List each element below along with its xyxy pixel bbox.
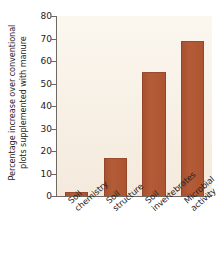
- y-axis-tick-labels: 01020304050607080: [30, 0, 52, 210]
- y-axis-tick-label: 80: [30, 11, 52, 21]
- y-axis-tick-label: 70: [30, 34, 52, 44]
- x-axis-tick-labels: Soil chemistrySoil structureSoil inverte…: [57, 198, 218, 260]
- y-axis-tick-label: 30: [30, 124, 52, 134]
- y-axis-tick-label: 40: [30, 101, 52, 111]
- y-axis-tick-mark: [51, 84, 56, 85]
- y-axis-tick-mark: [51, 16, 56, 17]
- y-axis-tick-mark: [51, 61, 56, 62]
- y-axis-title-container: Percentage increase over conventional pl…: [0, 0, 32, 210]
- bar: [142, 72, 165, 196]
- y-axis-tick-mark: [51, 106, 56, 107]
- bar-chart-figure: Percentage increase over conventional pl…: [0, 0, 218, 261]
- y-axis-title: Percentage increase over conventional pl…: [7, 13, 28, 193]
- y-axis-tick-label: 50: [30, 79, 52, 89]
- y-axis-tick-label: 0: [30, 191, 52, 201]
- y-axis-tick-mark: [51, 196, 56, 197]
- y-axis-tick-mark: [51, 129, 56, 130]
- y-axis-tick-label: 20: [30, 146, 52, 156]
- y-axis-tick-mark: [51, 39, 56, 40]
- y-axis-tick-label: 60: [30, 56, 52, 66]
- y-axis-tick-mark: [51, 151, 56, 152]
- y-axis-tick-label: 10: [30, 169, 52, 179]
- y-axis-tick-mark: [51, 174, 56, 175]
